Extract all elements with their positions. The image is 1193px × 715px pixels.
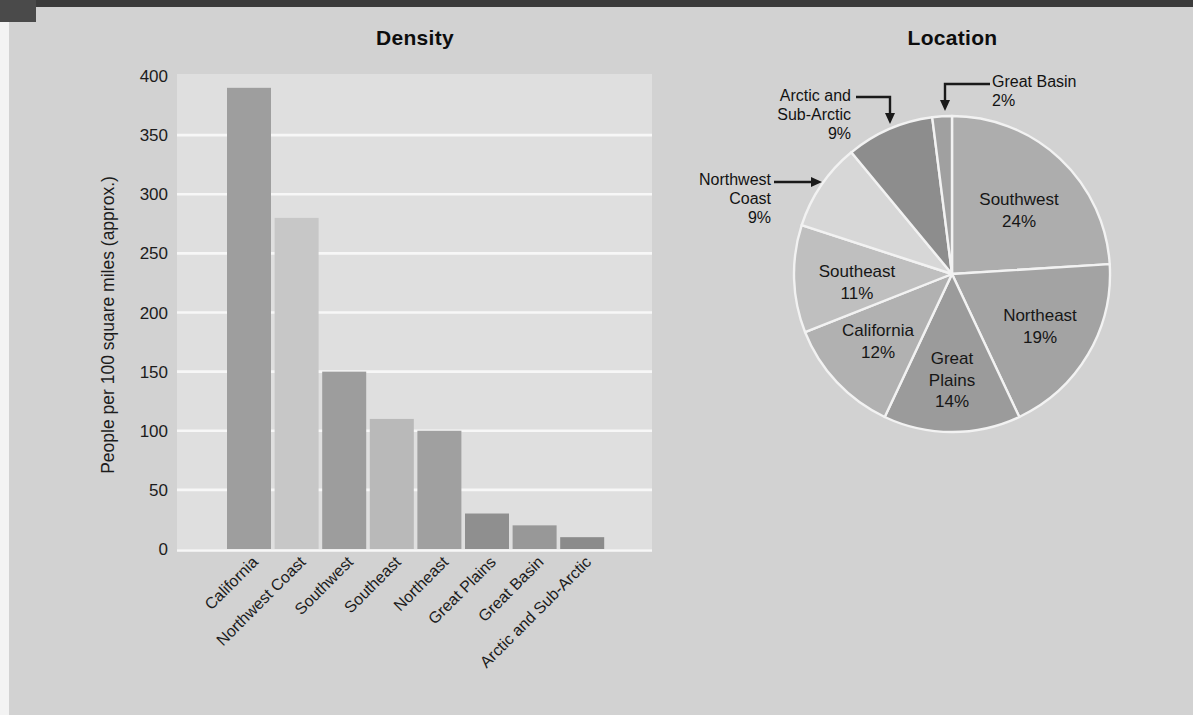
bar-northeast (417, 431, 461, 549)
pie-inside-label-california: California (842, 321, 914, 340)
bar-great-plains (465, 514, 509, 549)
pie-inside-label-southwest: Southwest (979, 190, 1059, 209)
bar-southwest (322, 372, 366, 549)
callout-pct-label: 2% (992, 91, 1142, 110)
y-tick-label: 150 (140, 363, 168, 382)
pie-inside-label-great-plains: 14% (935, 392, 969, 411)
callout-label-line: Northwest (650, 170, 771, 189)
pie-inside-label-great-plains: Plains (929, 371, 975, 390)
callout-label-line: Sub-Arctic (700, 105, 851, 124)
figure-panel: 050100150200250300350400CaliforniaNorthw… (0, 0, 1193, 715)
pie-inside-label-great-plains: Great (931, 349, 974, 368)
bar-southeast (370, 419, 414, 549)
callout-label-line: Coast (650, 189, 771, 208)
bar-great-basin (513, 525, 557, 549)
y-tick-label: 0 (159, 540, 168, 559)
pie-inside-label-northeast: 19% (1023, 328, 1057, 347)
pie-callout-great-basin: Great Basin 2% (992, 72, 1142, 110)
arctic-and-sub-arctic-arrow (856, 97, 890, 114)
bar-california (227, 88, 271, 549)
callout-pct-label: 9% (650, 208, 771, 227)
bar-northwest-coast (275, 218, 319, 549)
callout-label-line: Great Basin (992, 72, 1142, 91)
great-basin-arrow (945, 84, 990, 101)
y-tick-label: 400 (140, 67, 168, 86)
callout-label-line: Arctic and (700, 86, 851, 105)
y-tick-label: 50 (149, 481, 168, 500)
pie-callout-arctic-and-sub-arctic: Arctic and Sub-Arctic 9% (700, 86, 851, 143)
arctic-and-sub-arctic-arrow-head (885, 113, 895, 124)
density-chart-title: Density (177, 26, 653, 50)
x-axis-label-northwest-coast: Northwest Coast (213, 553, 309, 649)
y-tick-label: 350 (140, 126, 168, 145)
pie-inside-label-california: 12% (861, 343, 895, 362)
great-basin-arrow-head (940, 100, 950, 111)
y-axis-title: People per 100 square miles (approx.) (98, 176, 118, 474)
y-tick-label: 300 (140, 185, 168, 204)
pie-callout-northwest-coast: Northwest Coast 9% (650, 170, 771, 227)
callout-pct-label: 9% (700, 124, 851, 143)
pie-inside-label-southeast: Southeast (819, 262, 896, 281)
pie-inside-label-southwest: 24% (1002, 212, 1036, 231)
pie-inside-label-southeast: 11% (841, 284, 874, 303)
y-tick-label: 100 (140, 422, 168, 441)
y-tick-label: 250 (140, 244, 168, 263)
location-chart-title: Location (795, 26, 1110, 50)
y-tick-label: 200 (140, 304, 168, 323)
pie-inside-label-northeast: Northeast (1003, 306, 1077, 325)
bar-arctic-and-sub-arctic (560, 537, 604, 549)
